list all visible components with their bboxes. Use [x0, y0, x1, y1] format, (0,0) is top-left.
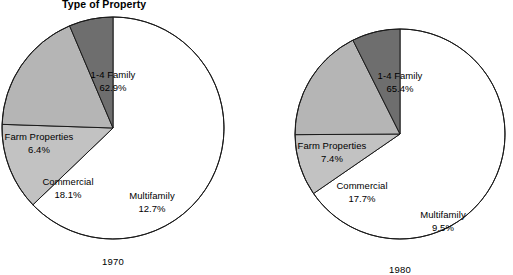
slice-pct: 17.7% — [317, 193, 407, 206]
slice-pct: 62.9% — [63, 82, 163, 95]
slice-pct: 12.7% — [108, 203, 196, 216]
slice-label-1-4-family-1970: 1-4 Family 62.9% — [63, 69, 163, 94]
slice-name: Farm Properties — [5, 131, 74, 142]
slice-pct: 65.4% — [350, 83, 450, 96]
slice-name: 1-4 Family — [91, 69, 136, 80]
slice-name: Multifamily — [420, 209, 465, 220]
page-title: Type of Property — [62, 0, 146, 10]
slice-label-multifamily-1980: Multifamily 9.5% — [399, 209, 487, 234]
slice-pct: 7.4% — [287, 153, 377, 166]
slice-label-farm-properties-1980: Farm Properties 7.4% — [287, 140, 377, 165]
slice-name: 1-4 Family — [378, 70, 423, 81]
slice-label-farm-properties-1970: Farm Properties 6.4% — [0, 131, 84, 156]
slice-name: Multifamily — [129, 190, 174, 201]
slice-name: Commercial — [42, 176, 93, 187]
pie-chart-figure: Type of Property 1-4 Family 62.9% Farm P… — [0, 0, 513, 275]
slice-name: Farm Properties — [298, 140, 367, 151]
slice-pct: 18.1% — [23, 189, 113, 202]
slice-name: Commercial — [336, 180, 387, 191]
pie-1980 — [295, 29, 505, 239]
year-label-1970: 1970 — [73, 256, 153, 267]
slice-label-multifamily-1970: Multifamily 12.7% — [108, 190, 196, 215]
slice-label-commercial-1980: Commercial 17.7% — [317, 180, 407, 205]
year-label-1980: 1980 — [360, 264, 440, 275]
pie-outline-1980 — [295, 29, 505, 239]
pie-slice-1-4-family-1980 — [314, 29, 505, 239]
slice-pct: 9.5% — [399, 222, 487, 235]
slice-pct: 6.4% — [0, 144, 84, 157]
slice-label-commercial-1970: Commercial 18.1% — [23, 176, 113, 201]
slice-label-1-4-family-1980: 1-4 Family 65.4% — [350, 70, 450, 95]
